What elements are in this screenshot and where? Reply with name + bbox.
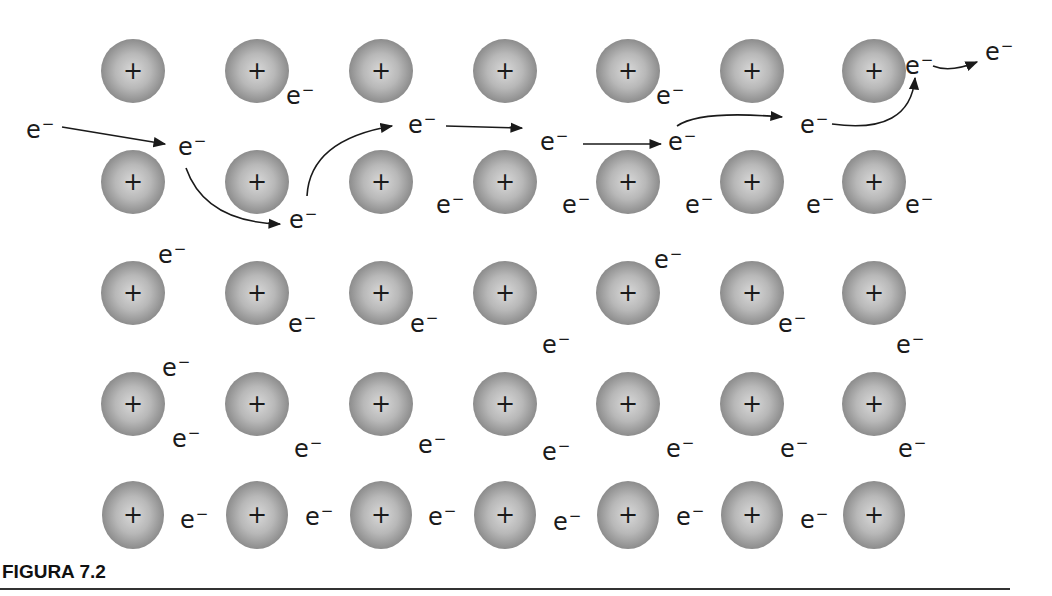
plus-sign-icon: + [371,57,391,85]
plus-sign-icon: + [247,57,267,85]
electron-label: e− [562,193,590,217]
arrow-icon [62,127,165,144]
electron-label: e− [410,312,438,336]
electron-label: e− [178,135,206,159]
plus-sign-icon: + [123,501,143,529]
electron-label: e− [428,505,456,529]
plus-sign-icon: + [864,168,884,196]
plus-sign-icon: + [123,279,143,307]
plus-sign-icon: + [247,501,267,529]
metal-lattice-diagram: +++++++++++++++++++++++++++++++++++ e−e−… [0,0,1052,596]
plus-sign-icon: + [618,57,638,85]
plus-sign-icon: + [618,501,638,529]
plus-sign-icon: + [742,168,762,196]
electron-label: e− [654,248,682,272]
plus-sign-icon: + [495,279,515,307]
plus-sign-icon: + [864,279,884,307]
plus-sign-icon: + [371,390,391,418]
electron-label: e− [408,113,436,137]
plus-sign-icon: + [371,168,391,196]
positive-ion: + [843,481,905,549]
plus-sign-icon: + [864,501,884,529]
arrow-icon [933,62,977,69]
positive-ion: + [349,261,413,325]
electron-label: e− [286,84,314,108]
positive-ions-group: +++++++++++++++++++++++++++++++++++ [101,39,906,549]
positive-ion: + [226,481,288,549]
electron-label: e− [666,437,694,461]
positive-ion: + [842,372,906,436]
electron-label: e− [162,356,190,380]
positive-ion: + [225,261,289,325]
positive-ion: + [720,372,784,436]
positive-ion: + [720,39,784,103]
positive-ion: + [596,372,660,436]
figure-caption: FIGURA 7.2 [2,561,106,583]
electron-label: e− [905,54,933,78]
electron-label: e− [436,193,464,217]
plus-sign-icon: + [742,279,762,307]
plus-sign-icon: + [247,279,267,307]
positive-ion: + [720,150,784,214]
plus-sign-icon: + [371,501,391,529]
electron-label: e− [905,193,933,217]
arrow-icon [446,126,522,128]
electron-label: e− [656,84,684,108]
plus-sign-icon: + [618,168,638,196]
plus-sign-icon: + [864,390,884,418]
positive-ion: + [349,372,413,436]
electron-label: e− [985,40,1013,64]
positive-ion: + [101,150,165,214]
positive-ion: + [596,39,660,103]
plus-sign-icon: + [371,279,391,307]
positive-ion: + [225,372,289,436]
electron-label: e− [305,505,333,529]
electron-label: e− [180,508,208,532]
positive-ion: + [842,261,906,325]
plus-sign-icon: + [618,390,638,418]
caption-divider [0,588,1010,590]
electron-label: e− [553,510,581,534]
plus-sign-icon: + [495,501,515,529]
positive-ion: + [473,39,537,103]
positive-ion: + [842,150,906,214]
positive-ion: + [473,261,537,325]
arrow-icon [677,115,782,126]
positive-ion: + [349,39,413,103]
positive-ion: + [721,481,783,549]
plus-sign-icon: + [495,390,515,418]
positive-ion: + [596,150,660,214]
plus-sign-icon: + [247,390,267,418]
plus-sign-icon: + [742,501,762,529]
plus-sign-icon: + [864,57,884,85]
positive-ion: + [225,150,289,214]
positive-ion: + [473,372,537,436]
positive-ion: + [474,481,536,549]
positive-ion: + [473,150,537,214]
electron-label: e− [540,130,568,154]
positive-ion: + [225,39,289,103]
plus-sign-icon: + [742,57,762,85]
electron-label: e− [172,427,200,451]
electron-label: e− [542,440,570,464]
positive-ion: + [720,261,784,325]
electron-label: e− [800,113,828,137]
electron-label: e− [896,333,924,357]
electron-label: e− [800,508,828,532]
electron-label: e− [685,193,713,217]
electron-label: e− [418,433,446,457]
electron-label: e− [780,437,808,461]
electron-label: e− [289,208,317,232]
electron-label: e− [294,437,322,461]
positive-ion: + [101,261,165,325]
positive-ion: + [101,39,165,103]
plus-sign-icon: + [495,57,515,85]
plus-sign-icon: + [123,390,143,418]
positive-ion: + [350,481,412,549]
positive-ion: + [597,481,659,549]
positive-ion: + [101,372,165,436]
positive-ion: + [102,481,164,549]
plus-sign-icon: + [123,168,143,196]
electron-label: e− [158,243,186,267]
lattice-svg: +++++++++++++++++++++++++++++++++++ [0,0,1052,596]
